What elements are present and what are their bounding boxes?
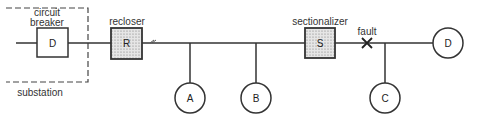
- sectionalizer-letter: S: [317, 38, 324, 49]
- load-c-letter: C: [381, 93, 388, 104]
- sectionalizer-label: sectionalizer: [292, 16, 348, 27]
- recloser-letter: R: [123, 38, 130, 49]
- fault-label: fault: [358, 26, 377, 37]
- load-b-letter: B: [253, 93, 260, 104]
- substation-label: substation: [17, 87, 63, 98]
- distribution-feeder-diagram: circuit breaker D substation recloser R …: [0, 0, 481, 120]
- circuit-breaker-letter: D: [49, 38, 56, 49]
- recloser-label: recloser: [109, 16, 145, 27]
- load-a-letter: A: [187, 93, 194, 104]
- load-d-letter: D: [444, 38, 451, 49]
- circuit-breaker-label-2: breaker: [30, 17, 65, 28]
